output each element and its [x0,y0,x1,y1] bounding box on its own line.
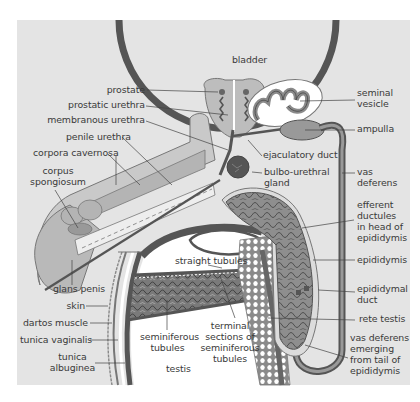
label-epididymal-duct-2: duct [357,295,377,306]
label-tunica-vaginalis: tunica vaginalis [20,335,88,346]
label-testis: testis [166,364,191,375]
cavernosa-cross-section-2 [78,200,102,220]
label-efferent-ductules-4: epididymis [357,233,407,244]
label-bulbo-urethral-gland-2: gland [264,178,290,189]
label-ejaculatory-duct: ejaculatory duct [263,150,337,161]
label-terminal-sections-2: sections of [200,332,260,343]
epididymal-duct-marker [296,290,301,295]
label-vas-deferens-2: deferens [357,178,397,189]
label-vas-deferens-emerging-1: vas deferens [350,333,409,344]
label-prostatic-urethra: prostatic urethra [40,100,145,111]
label-corpus-spongiosum-2: spongiosum [28,177,88,188]
label-vas-deferens-emerging-2: emerging [350,344,394,355]
label-skin: skin [40,301,85,312]
label-terminal-sections-4: tubules [200,354,260,365]
label-seminal-vesicle-2: vesicle [357,99,389,110]
label-membranous-urethra: membranous urethra [30,115,145,126]
label-glans-penis: glans penis [53,284,105,295]
label-ampulla: ampulla [357,124,394,135]
label-vas-deferens-1: vas [357,167,373,178]
label-terminal-sections-1: terminal [200,321,260,332]
epididymal-duct-marker [304,286,309,291]
label-vas-deferens-emerging-4: epididymis [350,366,400,377]
label-vas-deferens-emerging-3: from tail of [350,355,400,366]
label-seminiferous-tubules-2: tubules [140,343,195,354]
prostate-gland-dot [219,89,225,95]
label-efferent-ductules-3: in head of [357,222,403,233]
spongiosum-cross-section [68,223,92,235]
label-corpora-cavernosa: corpora cavernosa [33,148,119,159]
label-penile-urethra: penile urethra [66,132,131,143]
label-tunica-albuginea-2: albuginea [45,363,100,374]
label-dartos-muscle: dartos muscle [20,318,88,329]
label-seminiferous-tubules-1: seminiferous [140,332,195,343]
label-bulbo-urethral-gland-1: bulbo-urethral [264,167,330,178]
label-efferent-ductules-2: ductules [357,211,396,222]
label-seminal-vesicle-1: seminal [357,88,393,99]
label-tunica-albuginea-1: tunica [50,352,95,363]
label-efferent-ductules-1: efferent [357,200,393,211]
label-straight-tubules: straight tubules [175,256,247,267]
prostate-gland-dot [243,89,249,95]
label-rete-testis: rete testis [359,314,405,325]
label-prostate: prostate [60,85,145,96]
label-corpus-spongiosum-1: corpus [28,166,88,177]
label-epididymal-duct-1: epididymal [357,284,408,295]
label-epididymis: epididymis [357,255,407,266]
label-bladder: bladder [232,55,267,66]
label-terminal-sections-3: seminiferous [200,343,260,354]
